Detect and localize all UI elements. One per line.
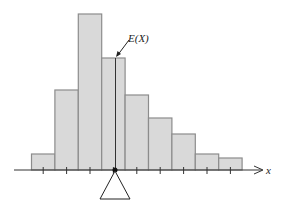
histogram-bar bbox=[125, 95, 148, 170]
histogram-bar bbox=[172, 134, 195, 170]
histogram-bar bbox=[78, 14, 101, 170]
fulcrum-triangle-icon bbox=[100, 171, 130, 199]
histogram-bar bbox=[55, 90, 78, 170]
histogram-figure: x E(X) bbox=[0, 0, 287, 213]
mean-label: E(X) bbox=[127, 32, 149, 45]
histogram-bar bbox=[102, 58, 125, 170]
axis-label: x bbox=[265, 164, 271, 176]
histogram-bar bbox=[149, 118, 172, 170]
